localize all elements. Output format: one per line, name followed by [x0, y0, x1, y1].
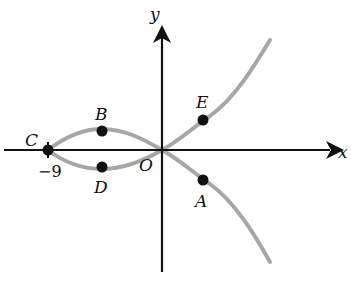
x-axis-label: x [338, 142, 348, 162]
tick-label-minus-nine: −9 [38, 162, 62, 181]
point-e [198, 115, 209, 126]
point-label-e: E [195, 92, 209, 112]
origin-label: O [139, 155, 153, 175]
point-label-d: D [93, 177, 108, 197]
point-c [43, 145, 54, 156]
point-label-b: B [94, 104, 108, 124]
y-axis-label: y [149, 4, 160, 24]
point-b [97, 126, 108, 137]
point-label-c: C [25, 130, 38, 150]
point-d [97, 162, 108, 173]
curve-diagram: y x O −9 C B D E A [0, 0, 351, 285]
point-label-a: A [193, 191, 207, 211]
point-a [198, 175, 209, 186]
